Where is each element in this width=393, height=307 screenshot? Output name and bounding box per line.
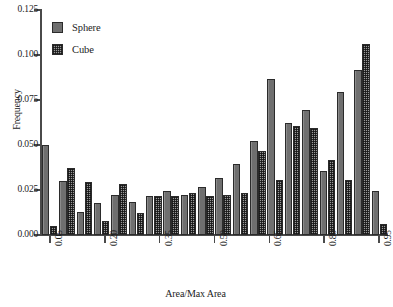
- x-axis-tick-label: 0.50: [219, 212, 229, 246]
- legend-item-cube: Cube: [52, 38, 162, 60]
- legend-item-sphere: Sphere: [52, 16, 162, 38]
- x-axis-tick-label: 0.80: [328, 212, 338, 246]
- x-axis-tick-mark: [323, 236, 325, 243]
- legend-label-sphere: Sphere: [72, 22, 101, 33]
- bar-sphere: [233, 164, 240, 235]
- bar-cube: [137, 213, 144, 236]
- bar-sphere: [198, 187, 205, 235]
- bar-sphere: [129, 202, 136, 235]
- legend-swatch-sphere-icon: [52, 22, 63, 33]
- legend-swatch-cube-icon: [52, 44, 63, 55]
- bar-sphere: [372, 191, 379, 235]
- bar-cube: [362, 44, 369, 235]
- x-axis-tick-label: 0.65: [273, 212, 283, 246]
- x-axis-tick-label: 0.95: [383, 212, 393, 246]
- x-axis-tick-label: 0.05: [54, 212, 64, 246]
- bar-cube: [258, 151, 265, 235]
- chart-legend: Sphere Cube: [52, 16, 162, 60]
- bar-sphere: [320, 171, 327, 235]
- bar-cube: [154, 196, 161, 235]
- bar-cube: [206, 196, 213, 235]
- bar-cube: [119, 184, 126, 235]
- x-axis-tick-mark: [104, 236, 106, 243]
- bar-cube: [293, 126, 300, 235]
- bar-cube: [67, 168, 74, 236]
- x-axis-tick-label: 0.20: [109, 212, 119, 246]
- x-axis-tick-mark: [214, 236, 216, 243]
- bar-sphere: [94, 203, 101, 235]
- bar-sphere: [146, 196, 153, 235]
- x-axis-tick-mark: [49, 236, 51, 243]
- bar-cube: [241, 193, 248, 235]
- bar-sphere: [354, 70, 361, 235]
- x-axis-title: Area/Max Area: [0, 288, 391, 299]
- bar-cube: [85, 182, 92, 235]
- bar-sphere: [42, 145, 49, 235]
- bar-sphere: [285, 123, 292, 236]
- y-axis-title: Frequency: [11, 70, 22, 150]
- bar-cube: [189, 193, 196, 235]
- y-axis-tick-label: 0.000: [0, 230, 38, 240]
- x-axis-tick-mark: [269, 236, 271, 243]
- y-axis-tick-label: 0.125: [0, 5, 38, 15]
- bar-cube: [345, 180, 352, 235]
- bar-sphere: [250, 141, 257, 236]
- bar-cube: [310, 128, 317, 235]
- bar-sphere: [302, 110, 309, 235]
- x-axis-tick-label: 0.35: [164, 212, 174, 246]
- y-axis-tick-label: 0.100: [0, 50, 38, 60]
- bar-sphere: [181, 195, 188, 235]
- legend-label-cube: Cube: [72, 44, 94, 55]
- bar-sphere: [77, 212, 84, 235]
- x-axis-tick-mark: [378, 236, 380, 243]
- x-axis-tick-mark: [159, 236, 161, 243]
- y-axis-tick-label: 0.025: [0, 185, 38, 195]
